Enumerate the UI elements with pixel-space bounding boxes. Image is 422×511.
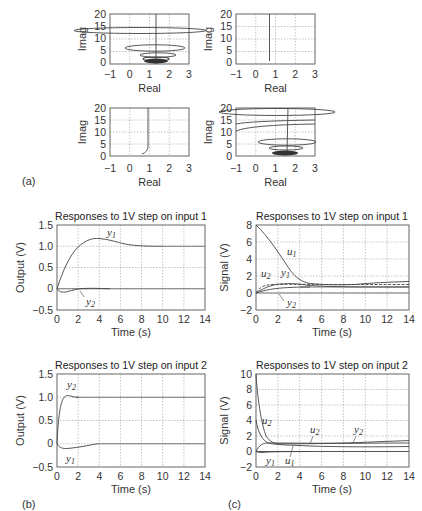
output-response-input2: Responses to 1V step on input 2 y2 y1 1.… [14,359,211,495]
x-tick: 1 [147,68,153,80]
x-axis-label: Real [264,82,287,94]
panel-label-a: (a) [22,175,35,187]
y-tick: 5 [226,138,232,150]
y-tick: 10 [220,32,232,44]
x-axis-label: Real [264,176,287,188]
y-tick: 1.0 [38,391,53,403]
x-axis-label: Time (s) [312,326,352,338]
x-tick: 2 [275,313,281,325]
x-tick: 3 [312,68,318,80]
x-tick: 4 [297,313,303,325]
label-u1: u1 [287,245,297,259]
x-tick: 4 [96,313,102,325]
y-axis-label: Output (V) [14,242,26,293]
x-tick: 10 [157,313,169,325]
y-tick: 20 [94,102,106,114]
y-tick: 5 [226,44,232,56]
y-tick: 0 [226,56,232,68]
y-axis-label: Signal (V) [218,396,230,444]
y-tick: 10 [240,368,252,380]
label-y1: y1 [65,452,75,466]
x-axis-label: Real [138,82,161,94]
x-tick: 0 [127,162,133,174]
y-tick: 0 [100,56,106,68]
x-tick: −1 [104,68,116,80]
x-axis-label: Time (s) [312,483,352,495]
x-axis-label: Time (s) [111,483,151,495]
x-tick: 2 [292,68,298,80]
x-tick: 6 [117,313,123,325]
x-tick: 0 [127,68,133,80]
x-tick: −1 [230,68,242,80]
x-tick: 12 [178,470,190,482]
x-tick: −1 [104,162,116,174]
panel-label-c: (c) [228,498,241,510]
y-axis-label: Imag [76,27,88,51]
y-axis-label: Imag [202,120,214,144]
y-tick: 0 [47,282,53,294]
x-tick: 6 [319,470,325,482]
x-tick: 0 [253,68,259,80]
y-tick: 0 [246,287,252,299]
chart-title: Responses to 1V step on input 2 [256,359,408,371]
x-tick: 2 [292,162,298,174]
x-tick: 2 [75,313,81,325]
x-tick: 3 [186,68,192,80]
y-tick: 10 [94,126,106,138]
y-tick: 4 [246,414,252,426]
panel-label-b: (b) [22,498,35,510]
x-tick: 8 [139,313,145,325]
x-tick: 6 [117,470,123,482]
y-tick: 0 [246,445,252,457]
root-locus-bottom-right: 20 15 10 5 0 −1 0 1 2 3 Real Imag [202,102,335,188]
x-tick: 4 [96,470,102,482]
x-tick: 10 [359,313,371,325]
y-axis-label: Imag [202,27,214,51]
x-tick: 12 [178,313,190,325]
y-tick: 0 [100,150,106,162]
x-tick: 6 [319,313,325,325]
label-u1: u1 [285,454,295,468]
label-y2: y2 [286,296,296,310]
signal-response-input1: Responses to 1V step on input 1 u1 u2 y1… [218,210,415,338]
y-tick: 20 [220,102,232,114]
y-tick: 8 [246,219,252,231]
x-tick: 3 [186,162,192,174]
x-tick: 8 [139,470,145,482]
x-tick: 14 [199,470,211,482]
x-tick: 0 [253,162,259,174]
chart-title: Responses to 1V step on input 2 [55,359,207,371]
x-axis-label: Real [138,176,161,188]
x-tick: 10 [359,470,371,482]
y-tick: 15 [94,20,106,32]
y-tick: 1.0 [38,240,53,252]
y-tick: 2 [246,270,252,282]
y-tick: 0.5 [38,261,53,273]
x-tick: −1 [230,162,242,174]
y-tick: 10 [220,126,232,138]
figure: 20 15 10 5 0 −1 0 1 2 3 Real Imag 20 15 … [0,0,422,511]
x-tick: 1 [273,68,279,80]
y-tick: 5 [100,44,106,56]
y-tick: 5 [100,138,106,150]
y-tick: 4 [246,253,252,265]
label-y1: y1 [265,454,275,468]
x-tick: 0 [54,313,60,325]
label-u2: u2 [262,414,272,428]
y-axis-label: Signal (V) [218,243,230,291]
x-tick: 0 [253,313,259,325]
x-tick: 2 [75,470,81,482]
label-y2: y2 [66,378,76,392]
y-tick: 0.5 [38,414,53,426]
x-tick: 14 [403,313,415,325]
y-tick: −2 [240,304,252,316]
x-tick: 14 [199,313,211,325]
root-locus-top-left: 20 15 10 5 0 −1 0 1 2 3 Real Imag [74,8,206,94]
label-y1: y1 [106,226,116,240]
y-tick: 1.5 [38,368,53,380]
output-response-input1: Responses to 1V step on input 1 y1 y2 1.… [14,210,211,338]
y-tick: −2 [240,461,252,473]
x-tick: 12 [381,313,393,325]
label-y2: y2 [353,423,363,437]
y-tick: 6 [246,236,252,248]
